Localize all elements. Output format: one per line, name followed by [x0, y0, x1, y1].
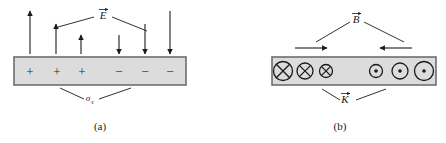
charged-slab	[14, 57, 186, 85]
panel-group: +++−−−Eσs(a)BK(b)	[14, 9, 436, 133]
surface-charge-label: σ	[86, 93, 91, 103]
out-of-page-dot	[422, 69, 426, 73]
figure-canvas: +++−−−Eσs(a)BK(b)	[0, 0, 446, 143]
field-label: E	[99, 9, 107, 21]
physics-figure: +++−−−Eσs(a)BK(b)	[0, 0, 446, 143]
panel-caption: (b)	[334, 120, 347, 133]
positive-charge: +	[26, 64, 33, 79]
out-of-page-dot	[374, 69, 378, 73]
negative-charge: −	[141, 64, 148, 79]
surface-leader-line	[60, 88, 84, 99]
out-of-page-dot	[398, 69, 402, 73]
negative-charge: −	[166, 64, 173, 79]
negative-charge: −	[115, 64, 122, 79]
surface-leader-line	[322, 89, 340, 100]
panel-b: BK(b)	[272, 13, 436, 133]
field-label: B	[353, 13, 360, 25]
field-leader-line	[364, 22, 404, 42]
field-leader-line	[112, 17, 147, 31]
panel-caption: (a)	[94, 120, 107, 133]
field-leader-line	[316, 22, 350, 42]
positive-charge: +	[53, 64, 60, 79]
field-leader-line	[58, 17, 94, 27]
surface-charge-label-subscript: s	[91, 99, 94, 105]
panel-a: +++−−−Eσs(a)	[14, 9, 186, 133]
surface-current-label: K	[340, 93, 349, 105]
surface-leader-line	[356, 89, 386, 100]
positive-charge: +	[78, 64, 85, 79]
surface-leader-line	[99, 88, 131, 99]
